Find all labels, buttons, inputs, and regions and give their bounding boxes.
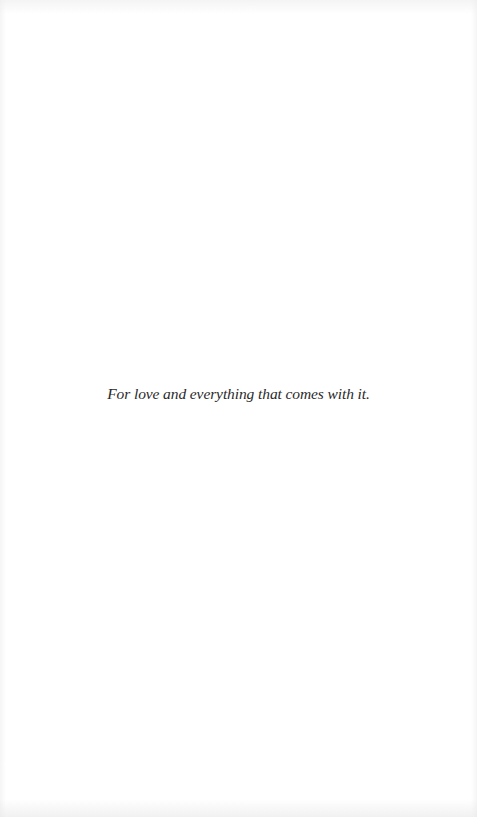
scan-edge-top	[0, 0, 477, 14]
scan-edge-left	[0, 0, 6, 817]
scan-edge-right	[471, 0, 477, 817]
dedication-page: For love and everything that comes with …	[0, 0, 477, 817]
scan-edge-bottom	[0, 799, 477, 817]
dedication-text: For love and everything that comes with …	[0, 384, 477, 404]
